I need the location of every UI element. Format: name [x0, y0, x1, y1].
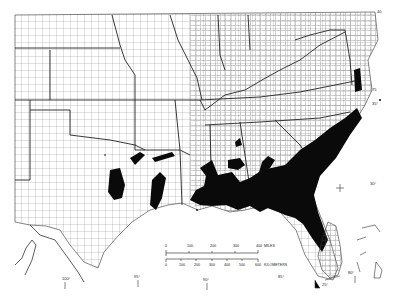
scale-km-200: 200: [194, 264, 200, 268]
scale-miles-200: 200: [210, 245, 216, 249]
scale-bar: [166, 250, 258, 262]
distribution-map: [0, 0, 397, 298]
scale-km-600: 600: [255, 264, 261, 268]
scale-miles-100: 100: [187, 245, 193, 249]
scale-km-0: 0: [165, 264, 167, 268]
lon-label-95: 95°: [134, 275, 140, 279]
scale-km-100: 100: [179, 264, 185, 268]
scale-miles-400: 400: [256, 245, 262, 249]
lon-label-90: 90°: [203, 278, 209, 282]
lat-label-35: 35°: [372, 102, 378, 106]
lon-label-100: 100°: [62, 277, 70, 281]
scale-km-500: 500: [239, 264, 245, 268]
scale-km-300: 300: [209, 264, 215, 268]
lat-label-25: 25°: [322, 283, 328, 287]
lat-label-40: 40: [377, 10, 381, 14]
lat-label-30: 30°: [370, 182, 376, 186]
lon-label-80: 80°: [348, 271, 354, 275]
scale-miles-unit: MILES: [264, 245, 275, 249]
scale-miles-0: 0: [165, 245, 167, 249]
scale-miles-300: 300: [233, 245, 239, 249]
lon-label-85: 85°: [278, 275, 284, 279]
lon-label-75: 75: [372, 88, 376, 92]
scale-km-unit: KILOMETERS: [264, 264, 287, 268]
scale-km-400: 400: [224, 264, 230, 268]
